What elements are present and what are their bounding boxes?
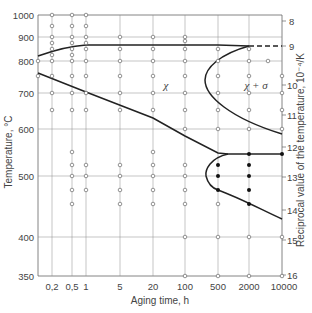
phase-diagram-chart: 1000 900 800 700 600 500 400 350 8 9 10 … [0,0,312,313]
x-axis-labels: 0,2 0,5 1 5 20 100 500 2000 10000 [45,281,297,292]
r-tick-8: 8 [289,16,294,27]
region-label-chi: χ [163,79,170,91]
y-tick-400: 400 [18,232,34,243]
y-tick-700: 700 [18,88,34,99]
y-tick-600: 600 [18,124,34,135]
y-axis-left-title: Temperature, °C [3,116,14,189]
phase-boundary-curves [38,45,282,219]
y-tick-500: 500 [18,171,34,182]
x-tick-2000: 2000 [238,281,259,292]
y-axis-right-title: Reciprocal value of the temperature, 10⁻… [295,53,306,247]
chi-start-line [38,73,228,154]
x-tick-10000: 10000 [271,281,297,292]
filled-data-points [216,152,284,206]
x-tick-0-5: 0,5 [65,281,78,292]
x-tick-0-2: 0,2 [45,281,58,292]
x-axis-title: Aging time, h [131,295,189,306]
x-tick-500: 500 [210,281,226,292]
region-label-chi-sigma: χ + σ [243,79,268,91]
open-data-points [36,13,284,278]
left-axis-labels: 1000 900 800 700 600 500 400 350 [13,10,34,282]
x-tick-100: 100 [177,281,193,292]
x-tick-20: 20 [148,281,159,292]
y-tick-800: 800 [18,56,34,67]
y-tick-900: 900 [18,32,34,43]
x-tick-1: 1 [83,281,88,292]
x-tick-5: 5 [117,281,122,292]
y-tick-1000: 1000 [13,10,34,21]
r-tick-9: 9 [289,41,294,52]
grid-horizontal [38,37,282,237]
y-tick-350: 350 [18,271,34,282]
r-tick-16: 16 [287,270,298,281]
